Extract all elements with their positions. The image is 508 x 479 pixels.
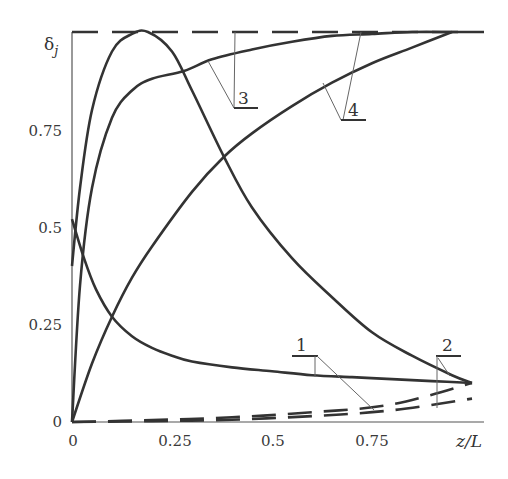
y-tick-0.75: 0.75 — [29, 122, 62, 140]
x-tick-0.5: 0.5 — [261, 432, 285, 450]
x-tick-0.25: 0.25 — [158, 432, 191, 450]
curve-1-solid — [72, 219, 472, 383]
curve-2-solid — [72, 30, 472, 383]
y-tick-0.5: 0.5 — [38, 219, 62, 237]
curve-4-solid — [72, 32, 452, 422]
curve-3-solid — [72, 32, 472, 422]
label-2: 2 — [436, 335, 461, 408]
series-group — [72, 30, 472, 422]
svg-text:4: 4 — [348, 100, 359, 120]
x-tick-0: 0 — [68, 432, 78, 450]
y-axis-label: δj — [44, 34, 58, 58]
label-3: 3 — [208, 32, 258, 108]
curve-2-dashed — [72, 399, 472, 422]
x-tick-0.75: 0.75 — [355, 432, 388, 450]
label-1: 1 — [292, 335, 374, 410]
chart: 0 0.25 0.5 0.75 0 0.25 0.5 0.75 δj z/L 3… — [0, 0, 508, 479]
svg-text:3: 3 — [238, 88, 249, 108]
svg-text:1: 1 — [296, 335, 307, 355]
y-tick-0: 0 — [52, 413, 62, 431]
y-tick-0.25: 0.25 — [29, 316, 62, 334]
x-axis-label: z/L — [455, 431, 482, 451]
svg-text:2: 2 — [442, 335, 453, 355]
curve-1-dashed — [72, 383, 472, 422]
